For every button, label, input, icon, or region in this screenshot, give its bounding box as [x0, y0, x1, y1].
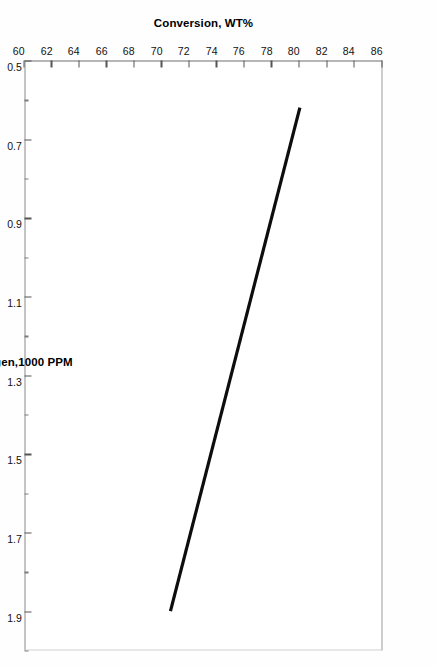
y-tick-major	[133, 60, 134, 67]
x-tick-major	[24, 60, 31, 61]
x-tick-minor	[24, 99, 28, 100]
x-tick-label: 1.1	[7, 296, 22, 308]
data-line-layer	[24, 60, 382, 650]
y-tick-major	[353, 60, 354, 67]
x-tick-major	[24, 453, 31, 454]
y-tick-major	[215, 60, 216, 67]
y-tick-major	[160, 60, 161, 67]
chart-canvas: 0.50.70.91.11.31.51.71.96062646668707274…	[0, 0, 436, 667]
y-axis-title: Conversion, WT%	[153, 16, 252, 28]
y-tick-major	[326, 60, 327, 67]
x-tick-minor	[24, 178, 28, 179]
x-tick-minor	[24, 257, 28, 258]
plot-area	[24, 60, 382, 650]
y-tick-label: 86	[0, 44, 382, 56]
x-tick-label: 0.7	[7, 139, 22, 151]
data-series-line	[170, 107, 299, 610]
x-tick-label: 0.5	[7, 60, 22, 72]
x-tick-label: 1.3	[7, 375, 22, 387]
x-tick-minor	[24, 650, 28, 651]
y-tick-major	[50, 60, 51, 67]
y-tick-major	[270, 60, 271, 67]
y-tick-major	[298, 60, 299, 67]
x-tick-minor	[24, 414, 28, 415]
y-tick-major	[105, 60, 106, 67]
x-tick-major	[24, 296, 31, 297]
y-tick-major	[78, 60, 79, 67]
x-tick-major	[24, 139, 31, 140]
y-tick-major	[188, 60, 189, 67]
scanned-page: 0.50.70.91.11.31.51.71.96062646668707274…	[0, 0, 436, 667]
x-tick-label: 1.5	[7, 453, 22, 465]
x-tick-major	[24, 532, 31, 533]
x-tick-label: 0.9	[7, 217, 22, 229]
rotation-wrapper: 0.50.70.91.11.31.51.71.96062646668707274…	[0, 0, 436, 667]
x-tick-major	[24, 375, 31, 376]
x-tick-label: 1.7	[7, 532, 22, 544]
y-tick-major	[23, 60, 24, 67]
x-tick-minor	[24, 493, 28, 494]
x-tick-label: 1.9	[7, 611, 22, 623]
x-tick-minor	[24, 571, 28, 572]
x-axis-title: Total Nitrogen,1000 PPM	[0, 355, 72, 367]
x-tick-major	[24, 611, 31, 612]
x-tick-major	[24, 217, 31, 218]
y-tick-major	[243, 60, 244, 67]
x-tick-minor	[24, 335, 28, 336]
y-tick-major	[381, 60, 382, 67]
